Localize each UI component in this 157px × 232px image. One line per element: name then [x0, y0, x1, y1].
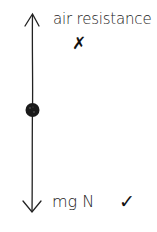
force-label-air-resistance: air resistance [53, 10, 151, 28]
particle-dot [26, 103, 40, 117]
check-mark-icon: ✓ [119, 190, 135, 212]
cross-mark-icon: ✗ [72, 33, 86, 53]
free-body-diagram: air resistance ✗ mg N ✓ [0, 0, 157, 232]
force-label-mg: mg N [52, 192, 94, 211]
